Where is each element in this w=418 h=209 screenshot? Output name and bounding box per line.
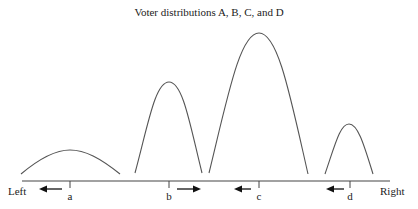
distribution-curve-d — [325, 124, 373, 174]
tick-label-a: a — [68, 190, 73, 202]
tick-label-d: d — [347, 190, 353, 202]
left-end-label: Left — [8, 185, 26, 197]
tick-label-c: c — [257, 190, 262, 202]
arrow-left-icon-d — [326, 186, 344, 193]
diagram-title: Voter distributions A, B, C, and D — [134, 6, 283, 18]
tick-label-b: b — [166, 190, 172, 202]
right-end-label: Right — [380, 185, 404, 197]
arrow-left-icon-a — [39, 186, 62, 193]
distribution-curve-b — [135, 82, 202, 173]
arrow-right-icon-b — [177, 186, 201, 193]
distribution-curve-a — [21, 150, 120, 174]
arrow-left-icon-c — [234, 186, 251, 193]
distribution-curve-c — [209, 33, 308, 174]
voter-distribution-diagram: Voter distributions A, B, C, and D a b c… — [0, 0, 418, 209]
